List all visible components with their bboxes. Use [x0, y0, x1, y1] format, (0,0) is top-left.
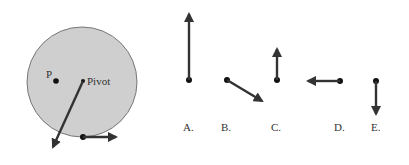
point-p-dot	[53, 78, 59, 84]
option-c: C.	[271, 49, 281, 133]
option-b-arrow	[227, 80, 262, 101]
option-e: E.	[371, 78, 381, 133]
option-b: B.	[221, 77, 262, 133]
option-b-label: B.	[221, 121, 231, 133]
wheel: P Pivot	[27, 27, 137, 147]
point-p-label: P	[46, 68, 52, 80]
option-a-label: A.	[183, 121, 194, 133]
pivot-label: Pivot	[87, 75, 110, 87]
option-a: A.	[183, 14, 194, 133]
option-c-label: C.	[271, 121, 281, 133]
option-d: D.	[308, 78, 345, 133]
option-e-label: E.	[371, 121, 381, 133]
option-d-label: D.	[334, 121, 345, 133]
diagram-canvas: P Pivot A. B. C. D. E.	[0, 0, 409, 165]
